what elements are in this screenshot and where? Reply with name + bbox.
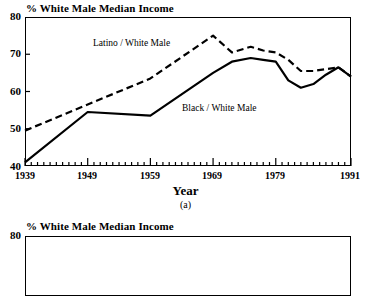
chart-a-series-black <box>25 58 351 162</box>
chart-a-svg <box>0 0 371 215</box>
chart-a-series <box>25 36 351 163</box>
chart-b-title: % White Male Median Income <box>26 220 174 232</box>
chart-b-ytick-80: 80 <box>1 230 21 241</box>
chart-a-series-latino <box>25 36 351 131</box>
chart-b-plot-frame <box>25 236 351 296</box>
